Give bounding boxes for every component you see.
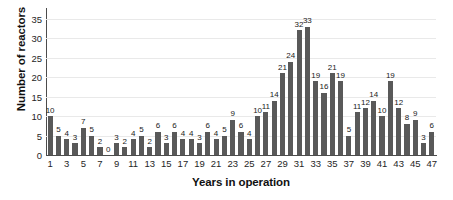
bar-value-label: 5 (347, 126, 351, 134)
bar-value-label: 4 (181, 130, 185, 138)
x-tick-label: 47 (427, 158, 438, 169)
bar[interactable] (122, 147, 127, 155)
bar[interactable] (180, 139, 185, 155)
bar[interactable] (56, 136, 61, 155)
bar-value-label: 4 (247, 130, 251, 138)
bar-slot: 10 (255, 11, 260, 155)
bar-slot: 4 (247, 11, 252, 155)
bar[interactable] (155, 132, 160, 155)
bar[interactable] (421, 143, 426, 155)
bar-slot: 0 (106, 11, 111, 155)
bar-slot: 9 (413, 11, 418, 155)
bar-slot: 5 (346, 11, 351, 155)
x-tick-label: 29 (277, 158, 288, 169)
bar-value-label: 24 (286, 52, 295, 60)
bar[interactable] (164, 143, 169, 155)
bar[interactable] (214, 139, 219, 155)
bar[interactable] (238, 132, 243, 155)
bar[interactable] (230, 120, 235, 155)
x-tick-label: 31 (294, 158, 305, 169)
bar[interactable] (330, 73, 335, 155)
bar[interactable] (371, 101, 376, 155)
bar[interactable] (114, 143, 119, 155)
x-axis-tick-labels: 1357911131517192123252729313335373941434… (46, 158, 436, 174)
bar[interactable] (97, 147, 102, 155)
bar-slot: 19 (313, 11, 318, 155)
bar-value-label: 5 (89, 126, 93, 134)
bar[interactable] (189, 139, 194, 155)
bar-value-label: 6 (156, 122, 160, 130)
x-axis-line (46, 155, 437, 156)
bar-slot: 14 (272, 11, 277, 155)
bar[interactable] (72, 143, 77, 155)
bar-slot: 6 (155, 11, 160, 155)
bar-slot: 33 (305, 11, 310, 155)
bar[interactable] (222, 136, 227, 155)
bar[interactable] (89, 136, 94, 155)
bar[interactable] (48, 116, 53, 155)
x-tick-label: 27 (261, 158, 272, 169)
y-axis-title: Number of reactors (15, 0, 27, 124)
bar-slot: 3 (197, 11, 202, 155)
bar[interactable] (131, 139, 136, 155)
bar[interactable] (321, 93, 326, 155)
bar-value-label: 6 (172, 122, 176, 130)
bar[interactable] (139, 136, 144, 155)
x-tick-label: 33 (310, 158, 321, 169)
bar-value-label: 4 (131, 130, 135, 138)
bar[interactable] (305, 27, 310, 155)
bar-slot: 3 (72, 11, 77, 155)
bar-value-label: 9 (230, 110, 234, 118)
bar-series: 1054375203245263644364596410111421243233… (46, 11, 436, 155)
bar[interactable] (172, 132, 177, 155)
bar[interactable] (288, 62, 293, 155)
bar[interactable] (413, 120, 418, 155)
bar-slot: 5 (56, 11, 61, 155)
bar[interactable] (338, 81, 343, 155)
bar[interactable] (346, 136, 351, 155)
bar[interactable] (205, 132, 210, 155)
bar-slot: 21 (330, 11, 335, 155)
bar-slot: 4 (64, 11, 69, 155)
bar-value-label: 3 (164, 134, 168, 142)
x-tick-label: 39 (360, 158, 371, 169)
bar[interactable] (263, 112, 268, 155)
x-tick-label: 11 (128, 158, 138, 169)
bar-slot: 6 (205, 11, 210, 155)
bar-slot: 5 (89, 11, 94, 155)
bar-slot: 4 (180, 11, 185, 155)
bar[interactable] (404, 124, 409, 155)
bar-slot: 9 (230, 11, 235, 155)
bar[interactable] (297, 30, 302, 155)
bar-slot: 4 (189, 11, 194, 155)
x-tick-label: 23 (227, 158, 238, 169)
x-tick-label: 19 (194, 158, 205, 169)
bar[interactable] (429, 132, 434, 155)
bar[interactable] (147, 147, 152, 155)
bar[interactable] (396, 108, 401, 155)
bar-value-label: 2 (123, 138, 127, 146)
bar-slot: 8 (404, 11, 409, 155)
bar-chart-figure: Number of reactors 05101520253035 105437… (0, 0, 453, 200)
bar[interactable] (280, 73, 285, 155)
bar[interactable] (388, 81, 393, 155)
bar-slot: 19 (388, 11, 393, 155)
bar[interactable] (355, 112, 360, 155)
bar[interactable] (247, 139, 252, 155)
bar-slot: 12 (396, 11, 401, 155)
x-tick-label: 21 (211, 158, 222, 169)
bar[interactable] (313, 81, 318, 155)
bar[interactable] (255, 116, 260, 155)
bar-value-label: 14 (270, 91, 279, 99)
bar-slot: 32 (297, 11, 302, 155)
bar[interactable] (272, 101, 277, 155)
bar-slot: 7 (81, 11, 86, 155)
bar-slot: 10 (48, 11, 53, 155)
bar[interactable] (379, 116, 384, 155)
bar-value-label: 4 (65, 130, 69, 138)
bar[interactable] (197, 143, 202, 155)
bar-slot: 11 (263, 11, 268, 155)
bar[interactable] (81, 128, 86, 155)
bar[interactable] (64, 139, 69, 155)
bar[interactable] (363, 108, 368, 155)
